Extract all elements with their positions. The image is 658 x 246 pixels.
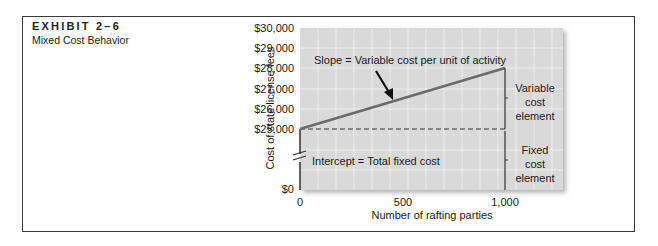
x-tick-0: 0 [297,196,303,208]
x-tick-500: 500 [394,196,412,208]
variable-element-label: Variable [515,82,555,94]
x-axis-title: Number of rafting parties [371,209,493,221]
slope-annotation: Slope = Variable cost per unit of activi… [314,54,507,66]
intercept-annotation: Intercept = Total fixed cost [312,155,440,167]
variable-element-label: cost [525,96,545,108]
mixed-cost-chart: $30,000 $29,000 $28,000 $27,000 $26,000 … [0,0,658,246]
fixed-element-label: Fixed [522,144,549,156]
y-tick-30000: $30,000 [254,22,294,34]
y-axis-title: Cost of state license fees [264,46,276,169]
y-tick-0: $0 [282,183,294,195]
fixed-element-label: element [515,172,554,184]
fixed-element-label: cost [525,158,545,170]
x-tick-1000: 1,000 [491,196,519,208]
variable-element-label: element [515,110,554,122]
